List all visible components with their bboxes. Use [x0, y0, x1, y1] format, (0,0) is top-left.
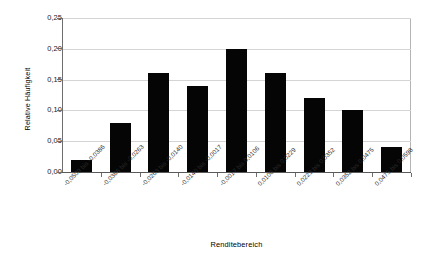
x-axis-tick-mark: [178, 173, 179, 177]
histogram-chart: Relative Häufigkeit 0,000,050,100,150,20…: [0, 0, 436, 259]
gridline: [63, 18, 411, 19]
y-axis-tick-mark: [57, 79, 62, 80]
y-axis-tick: 0,05: [0, 137, 62, 145]
x-axis-tick-mark: [411, 173, 412, 177]
x-axis-tick-mark: [295, 173, 296, 177]
y-axis-tick-label: 0,20: [8, 45, 62, 53]
y-axis-tick: 0,10: [0, 106, 62, 114]
y-axis-tick: 0,25: [0, 14, 62, 22]
x-axis-tick-mark: [256, 173, 257, 177]
y-axis-tick: 0,00: [0, 168, 62, 176]
y-axis-tick-mark: [57, 172, 62, 173]
x-axis-tick-mark: [217, 173, 218, 177]
y-axis-tick-label: 0,00: [8, 168, 62, 176]
y-axis-tick-label: 0,15: [8, 76, 62, 84]
y-axis-tick-mark: [57, 141, 62, 142]
y-axis-tick: 0,20: [0, 45, 62, 53]
y-axis-tick-mark: [57, 18, 62, 19]
x-axis-tick-mark: [333, 173, 334, 177]
x-axis-title: Renditebereich: [62, 240, 411, 249]
y-axis-tick-mark: [57, 110, 62, 111]
bar: [226, 49, 247, 172]
y-axis-tick-mark: [57, 48, 62, 49]
y-axis-tick-label: 0,10: [8, 106, 62, 114]
x-axis-tick-mark: [101, 173, 102, 177]
x-axis-tick-mark: [140, 173, 141, 177]
y-axis-tick: 0,15: [0, 76, 62, 84]
y-axis-tick-label: 0,05: [8, 137, 62, 145]
x-axis-tick-mark: [372, 173, 373, 177]
y-axis-tick-label: 0,25: [8, 14, 62, 22]
